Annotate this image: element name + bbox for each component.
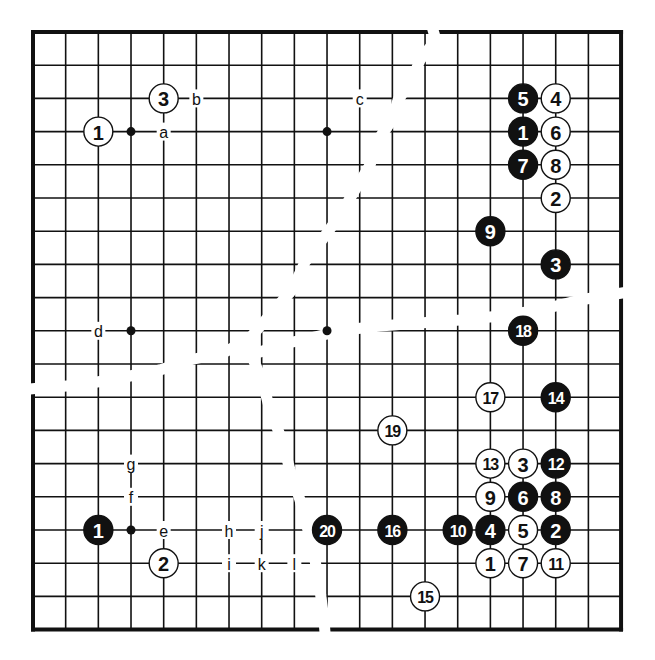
move-number: 6 [550,122,561,144]
white-stone: 3 [509,449,538,478]
move-number: 18 [515,323,532,340]
move-number: 16 [384,523,401,540]
white-stone: 1 [476,549,505,578]
move-number: 8 [550,155,561,177]
move-number: 9 [485,487,496,509]
white-stone: 7 [509,549,538,578]
white-stone: 17 [476,383,505,412]
black-stone: 4 [476,516,505,545]
black-stone: 16 [378,516,407,545]
move-number: 3 [550,254,561,276]
point-marker-c: c [356,91,364,108]
white-stone: 9 [476,482,505,511]
move-number: 1 [93,122,104,144]
black-stone: 14 [541,383,570,412]
point-marker-j: j [259,523,264,540]
black-stone: 9 [476,217,505,246]
move-number: 17 [482,390,499,407]
move-number: 1 [485,553,496,575]
move-number: 13 [482,456,499,473]
black-stone: 6 [509,482,538,511]
star-point-icon [323,127,332,136]
move-number: 4 [550,88,562,110]
black-stone: 10 [443,516,472,545]
move-number: 2 [550,188,561,210]
black-stone: 20 [313,516,342,545]
move-number: 5 [517,88,528,110]
black-stone: 1 [509,117,538,146]
star-point-icon [127,526,136,535]
move-number: 5 [517,520,528,542]
black-stone: 12 [541,449,570,478]
white-stone: 5 [509,516,538,545]
black-stone: 18 [509,316,538,345]
move-number: 12 [548,456,565,473]
point-marker-f: f [129,489,134,506]
white-stone: 11 [541,549,570,578]
star-point-icon [127,326,136,335]
white-stone: 19 [378,416,407,445]
move-number: 1 [517,122,528,144]
white-stone: 2 [149,549,178,578]
move-number: 6 [517,487,528,509]
black-stone: 5 [509,84,538,113]
move-number: 1 [93,520,104,542]
point-marker-h: h [225,523,234,540]
move-number: 3 [158,88,169,110]
point-marker-i: i [227,556,231,573]
move-number: 9 [485,221,496,243]
white-stone: 1 [84,117,113,146]
white-stone: 6 [541,117,570,146]
move-number: 7 [517,553,528,575]
white-stone: 2 [541,184,570,213]
white-stone: 4 [541,84,570,113]
black-stone: 1 [84,516,113,545]
move-number: 2 [158,553,169,575]
white-stone: 15 [411,582,440,611]
point-marker-k: k [258,556,267,573]
point-marker-g: g [127,456,136,473]
move-number: 7 [517,155,528,177]
point-marker-l: l [293,556,297,573]
move-number: 14 [548,390,565,407]
white-stone: 3 [149,84,178,113]
black-stone: 3 [541,250,570,279]
black-stone: 2 [541,516,570,545]
move-number: 3 [517,454,528,476]
point-marker-d: d [94,323,103,340]
move-number: 2 [550,520,561,542]
move-number: 19 [384,423,401,440]
white-stone: 8 [541,150,570,179]
black-stone: 7 [509,150,538,179]
star-point-icon [127,127,136,136]
go-board-diagram: abcdefghijkl 131234567891212345678910111… [0,0,655,660]
move-number: 15 [417,589,434,606]
white-stone: 13 [476,449,505,478]
go-board: abcdefghijkl 131234567891212345678910111… [0,0,655,660]
point-marker-b: b [192,91,201,108]
move-number: 4 [485,520,497,542]
black-stone: 8 [541,482,570,511]
point-marker-e: e [159,523,168,540]
move-number: 11 [548,556,564,573]
move-number: 20 [319,523,336,540]
move-number: 8 [550,487,561,509]
move-number: 10 [450,523,467,540]
star-point-icon [323,326,332,335]
point-marker-a: a [159,124,168,141]
